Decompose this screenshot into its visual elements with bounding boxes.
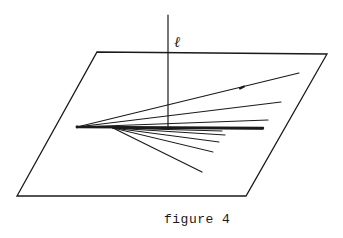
figure-4-diagram: ℓ: [0, 0, 343, 238]
ray-fan: [77, 73, 299, 172]
ray-1: [77, 73, 299, 127]
ray-10: [113, 128, 202, 172]
line-label-l: ℓ: [174, 33, 180, 51]
origin-point: [76, 126, 79, 129]
figure-caption: figure 4: [164, 212, 230, 227]
